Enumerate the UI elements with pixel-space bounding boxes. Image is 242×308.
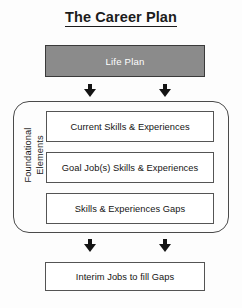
goal-job-skills-node: Goal Job(s) Skills & Experiences [46,152,214,183]
skills-gaps-node: Skills & Experiences Gaps [46,193,214,224]
arrow-down-icon [158,239,172,253]
goal-job-skills-label: Goal Job(s) Skills & Experiences [62,163,198,173]
arrow-down-icon [158,84,172,98]
skills-gaps-label: Skills & Experiences Gaps [75,204,185,214]
arrow-head [159,89,171,97]
arrow-head [84,244,96,252]
career-plan-diagram: The Career Plan Life Plan Foundational E… [0,0,242,308]
foundational-elements-group: Foundational Elements Current Skills & E… [13,101,229,233]
foundational-label-line1: Foundational [23,128,33,183]
foundational-label-line2: Elements [34,97,46,213]
foundational-elements-label: Foundational Elements [22,97,46,213]
current-skills-node: Current Skills & Experiences [46,111,214,142]
page-title-text: The Career Plan [65,9,177,27]
current-skills-label: Current Skills & Experiences [70,122,189,132]
life-plan-node: Life Plan [45,45,205,77]
interim-jobs-label: Interim Jobs to fill Gaps [76,272,174,282]
interim-jobs-node: Interim Jobs to fill Gaps [45,262,205,291]
page-title: The Career Plan [0,9,242,25]
arrow-head [84,89,96,97]
arrow-down-icon [83,239,97,253]
arrow-down-icon [83,84,97,98]
arrow-head [159,244,171,252]
life-plan-label: Life Plan [105,56,144,67]
